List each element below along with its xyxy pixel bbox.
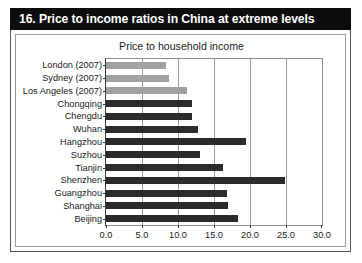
bar [106, 100, 192, 107]
bar-row: Chongqing [106, 97, 322, 110]
y-axis-label: Wuhan [73, 124, 102, 134]
y-axis-label: Tianjin [75, 163, 102, 173]
y-axis-label: Chongqing [58, 99, 102, 109]
bar-row: Guangzhou [106, 187, 322, 200]
bar-row: London (2007) [106, 59, 322, 72]
x-tick-label: 10.0 [169, 230, 187, 240]
x-tick-label: 15.0 [205, 230, 223, 240]
y-axis-label: London (2007) [42, 60, 102, 70]
x-tick-mark [142, 225, 143, 228]
x-tick-label: 5.0 [136, 230, 149, 240]
page-title: 16. Price to income ratios in China at e… [10, 12, 314, 26]
bar-row: Los Angeles (2007) [106, 85, 322, 98]
x-tick-mark [286, 225, 287, 228]
bar-row: Shanghai [106, 199, 322, 212]
x-tick-label: 20.0 [241, 230, 259, 240]
y-axis-label: Chengdu [65, 111, 102, 121]
x-tick-mark [321, 225, 322, 228]
bar [106, 75, 169, 82]
bar [106, 126, 198, 133]
y-tick-mark [103, 142, 106, 143]
bar [106, 164, 223, 171]
plot-area: 0.05.010.015.020.025.030.0 London (2007)… [105, 58, 323, 226]
y-tick-mark [103, 65, 106, 66]
y-axis-label: Guangzhou [54, 188, 102, 198]
x-tick-mark [178, 225, 179, 228]
y-tick-mark [103, 91, 106, 92]
chart-title: Price to household income [16, 40, 347, 52]
y-axis-label: Suzhou [71, 150, 102, 160]
x-tick-mark [106, 225, 107, 228]
bar-row: Suzhou [106, 148, 322, 161]
x-tick-mark [214, 225, 215, 228]
bar [106, 202, 228, 209]
title-banner: 16. Price to income ratios in China at e… [10, 8, 351, 30]
y-tick-mark [103, 180, 106, 181]
chart-card: Price to household income 0.05.010.015.0… [15, 34, 346, 247]
bar [106, 62, 166, 69]
bar-row: Hangzhou [106, 136, 322, 149]
bar [106, 190, 227, 197]
x-tick-mark [250, 225, 251, 228]
y-tick-mark [103, 116, 106, 117]
y-tick-mark [103, 155, 106, 156]
y-axis-label: Shenzhen [61, 175, 102, 185]
bar-row: Wuhan [106, 123, 322, 136]
x-tick-label: 25.0 [277, 230, 295, 240]
x-tick-label: 30.0 [313, 230, 331, 240]
bar-row: Sydney (2007) [106, 72, 322, 85]
y-tick-mark [103, 219, 106, 220]
y-axis-label: Sydney (2007) [42, 73, 102, 83]
bar [106, 87, 187, 94]
bar-row: Tianjin [106, 161, 322, 174]
bar [106, 151, 200, 158]
bar [106, 177, 285, 184]
y-tick-mark [103, 168, 106, 169]
y-axis-label: Los Angeles (2007) [23, 86, 102, 96]
y-tick-mark [103, 206, 106, 207]
figure: 16. Price to income ratios in China at e… [0, 0, 362, 263]
y-axis-label: Shanghai [63, 201, 102, 211]
y-axis-label: Hangzhou [60, 137, 102, 147]
bar [106, 215, 238, 222]
y-tick-mark [103, 104, 106, 105]
y-axis-label: Beijing [74, 214, 102, 224]
bar-row: Shenzhen [106, 174, 322, 187]
y-tick-mark [103, 129, 106, 130]
y-tick-mark [103, 193, 106, 194]
bar-row: Chengdu [106, 110, 322, 123]
y-tick-mark [103, 78, 106, 79]
bar [106, 138, 246, 145]
x-tick-label: 0.0 [100, 230, 113, 240]
bar-row: Beijing [106, 212, 322, 225]
bar [106, 113, 192, 120]
